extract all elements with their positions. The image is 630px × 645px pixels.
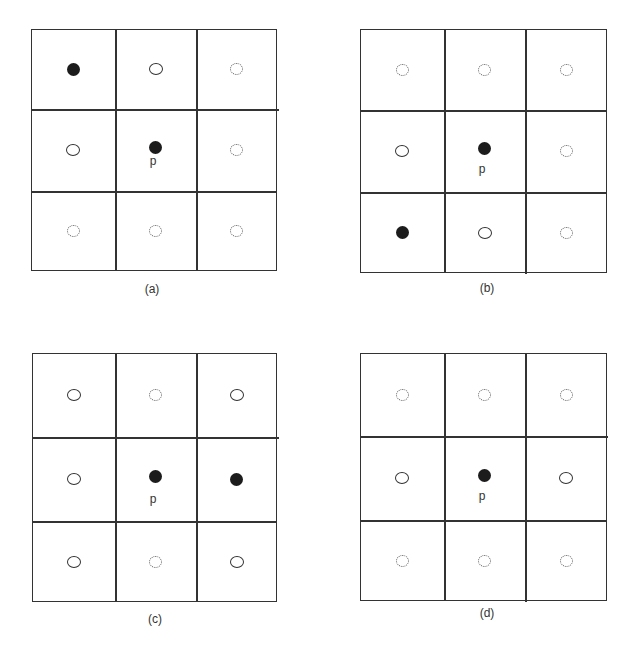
grid-line	[32, 437, 279, 439]
open-circle-icon	[67, 556, 81, 568]
filled-circle-icon	[149, 141, 162, 154]
open-circle-icon	[230, 389, 244, 401]
grid-line	[196, 353, 198, 602]
center-point-label: p	[150, 154, 157, 168]
grid-line	[31, 191, 277, 193]
dotted-circle-icon	[230, 63, 243, 75]
dotted-circle-icon	[149, 225, 162, 237]
center-point-label: p	[150, 492, 157, 506]
open-circle-icon	[67, 473, 81, 485]
grid-line	[444, 29, 446, 273]
filled-circle-icon	[478, 469, 491, 482]
grid-line	[360, 192, 607, 194]
grid-line	[115, 353, 117, 602]
open-circle-icon	[66, 144, 80, 156]
grid-line	[115, 29, 117, 271]
open-circle-icon	[478, 227, 492, 239]
dotted-circle-icon	[230, 225, 243, 237]
grid-line	[360, 110, 607, 112]
dotted-circle-icon	[149, 389, 162, 401]
center-point-label: p	[479, 162, 486, 176]
open-circle-icon	[559, 472, 573, 484]
caption-d: (d)	[480, 606, 495, 620]
dotted-circle-icon	[560, 227, 573, 239]
grid-line	[196, 29, 198, 271]
filled-circle-icon	[396, 226, 409, 239]
grid-line	[525, 353, 527, 602]
open-circle-icon	[67, 389, 81, 401]
caption-c: (c)	[148, 612, 162, 626]
dotted-circle-icon	[478, 389, 491, 401]
open-circle-icon	[395, 145, 409, 157]
filled-circle-icon	[149, 470, 162, 483]
open-circle-icon	[395, 472, 409, 484]
open-circle-icon	[230, 556, 244, 568]
dotted-circle-icon	[396, 389, 409, 401]
open-circle-icon	[149, 63, 163, 75]
center-point-label: p	[479, 489, 486, 503]
caption-a: (a)	[145, 282, 160, 296]
grid-line	[31, 109, 279, 111]
dotted-circle-icon	[67, 225, 80, 237]
caption-b: (b)	[480, 281, 495, 295]
grid-line	[360, 520, 607, 522]
dotted-circle-icon	[478, 555, 491, 567]
dotted-circle-icon	[560, 555, 573, 567]
filled-circle-icon	[67, 63, 80, 76]
filled-circle-icon	[478, 142, 491, 155]
grid-line	[444, 353, 446, 601]
dotted-circle-icon	[560, 64, 573, 76]
dotted-circle-icon	[396, 555, 409, 567]
grid-line	[525, 29, 527, 274]
dotted-circle-icon	[560, 145, 573, 157]
dotted-circle-icon	[230, 144, 243, 156]
dotted-circle-icon	[560, 389, 573, 401]
grid-line	[32, 521, 277, 523]
filled-circle-icon	[230, 473, 243, 486]
dotted-circle-icon	[478, 64, 491, 76]
dotted-circle-icon	[149, 556, 162, 568]
dotted-circle-icon	[396, 64, 409, 76]
grid-line	[360, 436, 608, 438]
